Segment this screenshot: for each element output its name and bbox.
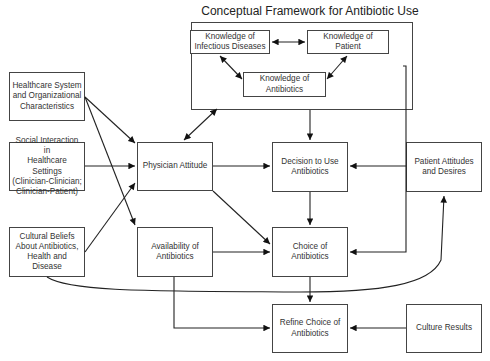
connector-arrows	[0, 0, 490, 361]
